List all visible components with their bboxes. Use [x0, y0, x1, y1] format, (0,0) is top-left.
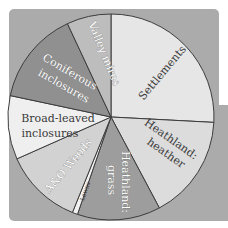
label-broad-leaved-2: inclosures: [21, 127, 78, 140]
label-broad-leaved-1: Broad-leaved: [21, 112, 95, 125]
label-heathland-grass-1: Heathland:: [119, 151, 132, 213]
pie-chart: Settlements Heathland: heather Heathland…: [0, 0, 228, 228]
label-heathland-grass-2: grass: [105, 165, 118, 196]
